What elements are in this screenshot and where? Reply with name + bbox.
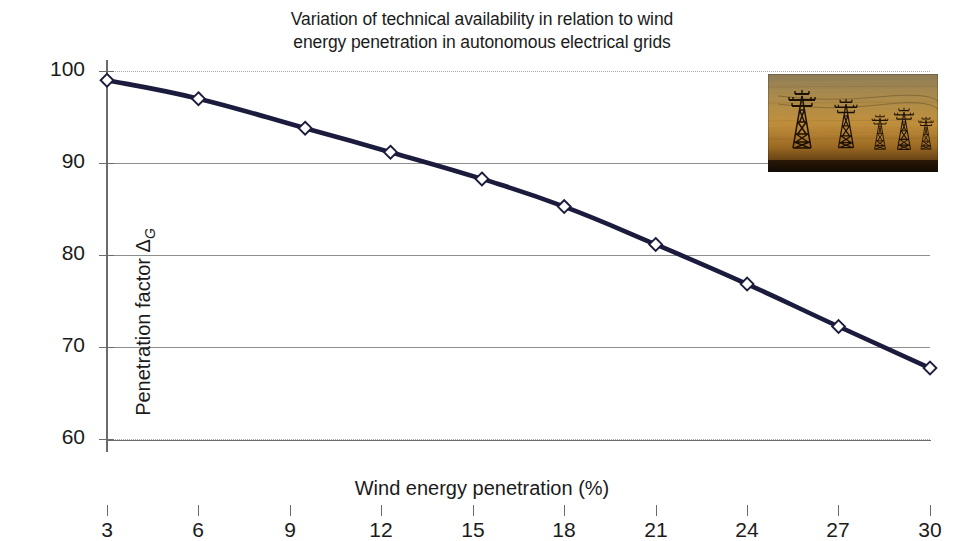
xtick-mark-21 (656, 505, 657, 516)
y-axis-title: Penetration factor ΔG (132, 122, 158, 522)
gridline-80 (107, 255, 930, 256)
x-axis-title: Wind energy penetration (%) (0, 477, 964, 500)
xtick-label-3: 3 (82, 518, 132, 541)
ytick-label-80: 80 (39, 241, 85, 265)
xtick-mark-27 (838, 505, 839, 516)
xtick-label-24: 24 (722, 518, 772, 541)
chart-title-line-2: energy penetration in autonomous electri… (0, 31, 964, 54)
xtick-label-15: 15 (448, 518, 498, 541)
xtick-label-12: 12 (356, 518, 406, 541)
xtick-label-21: 21 (631, 518, 681, 541)
xtick-mark-18 (564, 505, 565, 516)
xtick-mark-30 (930, 505, 931, 516)
chart-title: Variation of technical availability in r… (0, 8, 964, 54)
xtick-mark-12 (381, 505, 382, 516)
ytick-label-70: 70 (39, 333, 85, 357)
xtick-label-18: 18 (539, 518, 589, 541)
xtick-label-9: 9 (265, 518, 315, 541)
xtick-mark-9 (290, 505, 291, 516)
xtick-label-27: 27 (813, 518, 863, 541)
ytick-label-60: 60 (39, 425, 85, 449)
xtick-label-6: 6 (173, 518, 223, 541)
transmission-towers-photo (768, 74, 938, 172)
ytick-label-100: 100 (39, 57, 85, 81)
y-axis-line (106, 60, 108, 452)
x-axis-line (107, 440, 931, 441)
xtick-label-30: 30 (905, 518, 955, 541)
xtick-mark-3 (107, 505, 108, 516)
ytick-label-90: 90 (39, 149, 85, 173)
gridline-70 (107, 347, 930, 348)
gridline-100 (107, 71, 930, 72)
xtick-mark-15 (473, 505, 474, 516)
y-axis-title-subscript: G (142, 228, 158, 239)
chart-title-line-1: Variation of technical availability in r… (0, 8, 964, 31)
xtick-mark-6 (198, 505, 199, 516)
xtick-mark-24 (747, 505, 748, 516)
y-axis-title-text: Penetration factor Δ (132, 239, 154, 416)
photo-content (768, 74, 938, 172)
